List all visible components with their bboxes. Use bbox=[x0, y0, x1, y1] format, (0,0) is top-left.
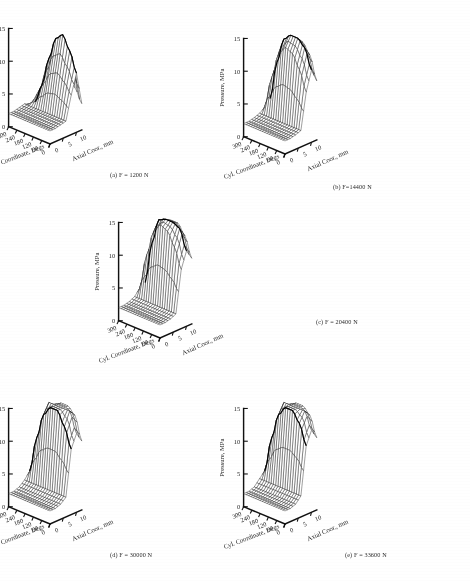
svg-text:15: 15 bbox=[234, 35, 240, 42]
svg-text:5: 5 bbox=[237, 470, 240, 477]
svg-text:10: 10 bbox=[79, 513, 88, 522]
svg-text:5: 5 bbox=[302, 520, 308, 528]
svg-text:0: 0 bbox=[289, 156, 295, 164]
caption-e: (e) F = 33600 N bbox=[345, 551, 387, 558]
svg-text:Pressure, MPa: Pressure, MPa bbox=[218, 68, 225, 106]
svg-text:10: 10 bbox=[0, 438, 5, 445]
caption-b: (b) F=14400 N bbox=[333, 183, 372, 190]
svg-text:0: 0 bbox=[54, 146, 60, 154]
svg-text:10: 10 bbox=[234, 438, 240, 445]
svg-text:0: 0 bbox=[2, 503, 5, 510]
panel-c: 051015Pressure, MPa300240180120600Cyl. C… bbox=[118, 212, 344, 380]
svg-text:Cyl. Coordinate, Degs: Cyl. Coordinate, Degs bbox=[98, 336, 156, 364]
plot-c: 051015Pressure, MPa300240180120600Cyl. C… bbox=[118, 212, 344, 380]
svg-text:10: 10 bbox=[189, 327, 198, 336]
figure-multi-panel-surface-plots: 051015Pressure, MPa300240180120600Cyl. C… bbox=[0, 0, 470, 581]
svg-text:Pressure, MPa: Pressure, MPa bbox=[93, 252, 100, 290]
svg-text:0: 0 bbox=[2, 123, 5, 130]
svg-text:5: 5 bbox=[237, 100, 240, 107]
svg-text:10: 10 bbox=[79, 133, 88, 142]
svg-text:0: 0 bbox=[237, 133, 240, 140]
panel-b: 051015Pressure, MPa300240180120600Cyl. C… bbox=[243, 28, 469, 196]
plot-b: 051015Pressure, MPa300240180120600Cyl. C… bbox=[243, 28, 469, 196]
svg-text:5: 5 bbox=[112, 284, 115, 291]
svg-text:15: 15 bbox=[0, 25, 5, 32]
svg-text:5: 5 bbox=[177, 334, 183, 342]
svg-text:0: 0 bbox=[112, 317, 115, 324]
panel-d: 051015Pressure, MPa300240180120600Cyl. C… bbox=[8, 398, 234, 566]
svg-text:5: 5 bbox=[2, 90, 5, 97]
caption-c: (c) F = 20400 N bbox=[316, 318, 358, 325]
svg-text:Axial Coor., mm: Axial Coor., mm bbox=[181, 331, 225, 356]
panel-e: 051015Pressure, MPa300240180120600Cyl. C… bbox=[243, 398, 469, 566]
svg-text:0: 0 bbox=[54, 526, 60, 534]
svg-text:Axial Coor., mm: Axial Coor., mm bbox=[306, 517, 350, 542]
caption-a: (a) F = 1200 N bbox=[110, 171, 149, 178]
svg-text:5: 5 bbox=[2, 470, 5, 477]
svg-text:15: 15 bbox=[109, 219, 115, 226]
plot-a: 051015Pressure, MPa300240180120600Cyl. C… bbox=[8, 18, 234, 186]
plot-e: 051015Pressure, MPa300240180120600Cyl. C… bbox=[243, 398, 469, 566]
svg-text:Axial Coor., mm: Axial Coor., mm bbox=[71, 137, 115, 162]
svg-text:Axial Coor., mm: Axial Coor., mm bbox=[306, 147, 350, 172]
svg-text:0: 0 bbox=[237, 503, 240, 510]
svg-text:5: 5 bbox=[302, 150, 308, 158]
svg-text:15: 15 bbox=[0, 405, 5, 412]
svg-text:10: 10 bbox=[109, 252, 115, 259]
svg-text:Pressure, MPa: Pressure, MPa bbox=[218, 438, 225, 476]
svg-text:10: 10 bbox=[0, 58, 5, 65]
svg-text:0: 0 bbox=[164, 340, 170, 348]
svg-text:5: 5 bbox=[67, 140, 73, 148]
svg-text:15: 15 bbox=[234, 405, 240, 412]
svg-text:5: 5 bbox=[67, 520, 73, 528]
svg-text:10: 10 bbox=[234, 68, 240, 75]
panel-a: 051015Pressure, MPa300240180120600Cyl. C… bbox=[8, 18, 234, 186]
svg-text:Axial Coor., mm: Axial Coor., mm bbox=[71, 517, 115, 542]
svg-text:10: 10 bbox=[314, 513, 323, 522]
svg-text:0: 0 bbox=[289, 526, 295, 534]
caption-d: (d) F = 30000 N bbox=[110, 551, 152, 558]
plot-d: 051015Pressure, MPa300240180120600Cyl. C… bbox=[8, 398, 234, 566]
svg-text:10: 10 bbox=[314, 143, 323, 152]
